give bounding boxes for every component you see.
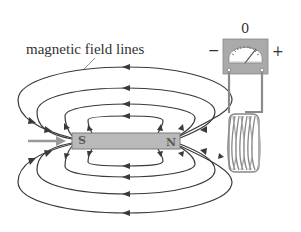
bar-magnet: S N	[72, 133, 180, 149]
terminal-right	[260, 68, 264, 72]
galvanometer: 0 − +	[208, 21, 284, 74]
meter-minus-label: −	[208, 42, 220, 58]
meter-plus-label: +	[272, 43, 284, 59]
meter-wires	[229, 72, 262, 113]
terminal-left	[227, 68, 231, 72]
meter-zero-label: 0	[241, 21, 249, 36]
south-pole-label: S	[78, 133, 86, 146]
motion-arrow	[28, 136, 66, 146]
north-pole-label: N	[166, 136, 176, 149]
label-leader-line	[84, 58, 95, 69]
diagram-canvas: magnetic field lines	[0, 0, 301, 232]
field-lines-label: magnetic field lines	[26, 41, 144, 57]
coil	[228, 114, 260, 172]
